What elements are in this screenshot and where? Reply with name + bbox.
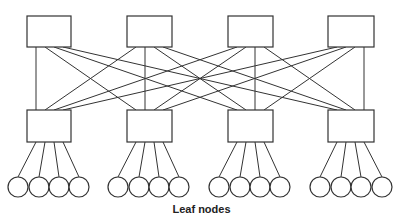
spine-switches: [27, 16, 374, 47]
leaf-switch-box: [228, 110, 273, 142]
node-link: [63, 142, 79, 177]
leaf-nodes: [8, 177, 392, 197]
leaf-node-circle: [250, 177, 270, 197]
leaf-node-circle: [351, 177, 371, 197]
node-link: [240, 142, 246, 177]
leaf-node-circle: [29, 177, 49, 197]
node-link: [355, 142, 361, 177]
leaf-node-circle: [209, 177, 229, 197]
leaf-node-circle: [149, 177, 169, 197]
node-link: [18, 142, 36, 177]
spine-leaf-diagram: [0, 0, 403, 221]
leaf-node-circle: [230, 177, 250, 197]
leaf-node-links: [18, 142, 382, 177]
leaf-switches: [27, 110, 374, 142]
leaf-node-circle: [310, 177, 330, 197]
leaf-node-circle: [129, 177, 149, 197]
spine-switch-box: [27, 16, 71, 47]
spine-switch-box: [228, 16, 273, 47]
leaf-node-circle: [49, 177, 69, 197]
node-link: [341, 142, 346, 177]
node-link: [54, 142, 59, 177]
node-link: [163, 142, 179, 177]
leaf-switch-box: [328, 110, 374, 142]
leaf-node-circle: [270, 177, 290, 197]
node-link: [154, 142, 159, 177]
leaf-node-circle: [372, 177, 392, 197]
leaf-node-circle: [69, 177, 89, 197]
leaf-node-circle: [331, 177, 351, 197]
node-link: [320, 142, 337, 177]
leaf-node-circle: [8, 177, 28, 197]
node-link: [364, 142, 382, 177]
leaf-switch-box: [127, 110, 172, 142]
node-link: [219, 142, 237, 177]
node-link: [264, 142, 280, 177]
spine-switch-box: [328, 16, 374, 47]
node-link: [118, 142, 136, 177]
leaf-node-circle: [108, 177, 128, 197]
node-link: [139, 142, 145, 177]
leaf-switch-box: [27, 110, 71, 142]
spine-switch-box: [127, 16, 172, 47]
leaf-node-circle: [169, 177, 189, 197]
node-link: [255, 142, 260, 177]
node-link: [39, 142, 45, 177]
leaf-nodes-caption: Leaf nodes: [0, 203, 403, 215]
spine-leaf-links: [36, 47, 364, 110]
